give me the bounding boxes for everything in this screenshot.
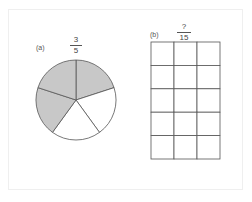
grid-cell [174,65,197,88]
grid-cell [174,136,197,159]
grid-cell [151,42,174,65]
grid-cell [197,112,220,135]
grid-cell [197,89,220,112]
grid-cell [174,42,197,65]
grid-cell [197,136,220,159]
grid-cell [151,65,174,88]
grid-cell [174,112,197,135]
grid-cell [151,89,174,112]
grid-cell [174,89,197,112]
grid-cell [197,42,220,65]
grid-cell [197,65,220,88]
grid-cell [151,136,174,159]
figure-canvas [0,0,252,202]
grid-cell [151,112,174,135]
